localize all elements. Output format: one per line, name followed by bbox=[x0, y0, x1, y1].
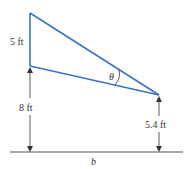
triangle bbox=[30, 13, 159, 95]
right-height-label: 5.4 ft bbox=[145, 119, 166, 130]
top-segment-label: 5 ft bbox=[10, 36, 24, 47]
lower-side bbox=[30, 66, 159, 95]
upper-side bbox=[30, 13, 159, 95]
diagram-canvas: θ 5 ft 8 ft 5.4 ft b bbox=[0, 0, 189, 169]
left-height-label: 8 ft bbox=[19, 102, 33, 113]
angle-label: θ bbox=[109, 71, 114, 82]
base-label: b bbox=[91, 156, 96, 167]
angle-arc bbox=[115, 70, 120, 85]
